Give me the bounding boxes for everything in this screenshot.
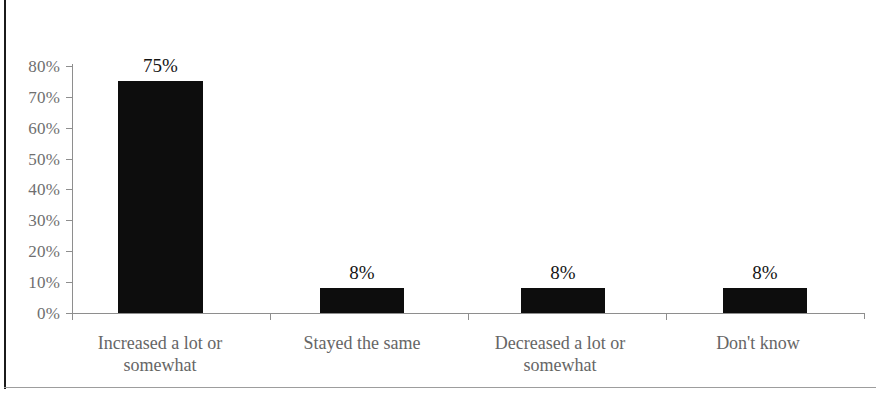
x-axis-category-label-stayed: Stayed the same [263, 332, 461, 354]
category-label-line1: Decreased a lot or [461, 332, 659, 354]
y-axis-label-80: 80% [8, 58, 60, 75]
y-axis-label-30: 30% [8, 212, 60, 229]
y-axis-label-70: 70% [8, 89, 60, 106]
x-axis-category-label-increased: Increased a lot or somewhat [61, 332, 259, 376]
y-axis-label-10: 10% [8, 274, 60, 291]
y-axis-label-0: 0% [8, 305, 60, 322]
x-axis-category-label-dont-know: Don't know [659, 332, 857, 354]
bar-value-label-stayed: 8% [312, 263, 412, 282]
x-axis-tick [72, 313, 73, 320]
bar-value-label-decreased: 8% [513, 263, 613, 282]
category-label-line2: somewhat [461, 354, 659, 376]
x-axis-category-label-decreased: Decreased a lot or somewhat [461, 332, 659, 376]
bar-chart: 80% 70% 60% 50% 40% 30% 20% 10% 0% [0, 0, 879, 395]
y-axis-tick [66, 159, 73, 160]
y-axis-tick [66, 282, 73, 283]
y-axis-tick [66, 97, 73, 98]
x-axis-tick [270, 313, 271, 320]
y-axis-label-50: 50% [8, 151, 60, 168]
bar-dont-know [723, 288, 807, 313]
category-label-line1: Increased a lot or [61, 332, 259, 354]
y-axis-label-40: 40% [8, 181, 60, 198]
y-axis-tick [66, 189, 73, 190]
category-label-line1: Stayed the same [263, 332, 461, 354]
bar-value-label-increased: 75% [110, 56, 211, 75]
x-axis-tick [468, 313, 469, 320]
bar-decreased-a-lot-or-somewhat [521, 288, 605, 313]
category-label-line2: somewhat [61, 354, 259, 376]
y-axis-tick [66, 128, 73, 129]
bar-increased-a-lot-or-somewhat [118, 81, 203, 313]
x-axis-end-tick [864, 313, 865, 319]
category-label-line1: Don't know [659, 332, 857, 354]
y-axis-label-60: 60% [8, 120, 60, 137]
plot-area: 80% 70% 60% 50% 40% 30% 20% 10% 0% [0, 0, 879, 395]
x-axis-tick [666, 313, 667, 320]
y-axis-label-20: 20% [8, 243, 60, 260]
bar-value-label-dont-know: 8% [715, 263, 815, 282]
y-axis-tick [66, 66, 73, 67]
y-axis-tick [66, 220, 73, 221]
y-axis-tick [66, 251, 73, 252]
bar-stayed-the-same [320, 288, 404, 313]
